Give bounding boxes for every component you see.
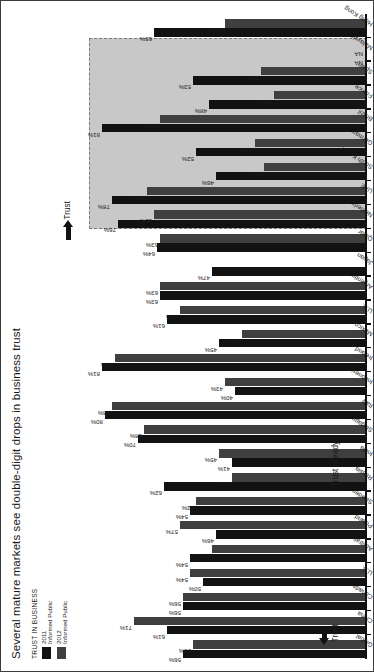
- bar-value-label: 62%: [149, 490, 161, 497]
- axis-tick: [365, 323, 371, 324]
- axis-tick: [365, 586, 371, 587]
- bar-2011: [196, 148, 365, 156]
- bar-2012: [144, 425, 365, 433]
- bar-value-label: 64%: [143, 251, 155, 258]
- bar-value-label: 50%: [188, 586, 200, 593]
- bar-group: 54%47%Australia: [89, 540, 365, 564]
- legend-label-2011: 2011 Informed Public: [41, 601, 54, 644]
- bar-group: 50%54%U.S.: [89, 563, 365, 587]
- bar-value-label: 52%: [182, 505, 194, 512]
- bar-2011: [193, 76, 365, 84]
- axis-tick: [365, 252, 371, 253]
- bar-group: 48%28%France: [89, 86, 365, 110]
- bar-value-label: 57%: [166, 314, 178, 321]
- bar-2012: [190, 569, 365, 577]
- bar-value-label: 63%: [146, 123, 158, 130]
- bar-value-label: 54%: [175, 514, 187, 521]
- bar-plot-area: 56%53%Global61%71%China56%56%Canada50%54…: [89, 14, 365, 659]
- axis-tick: [365, 37, 371, 38]
- bar-2012: [232, 473, 365, 481]
- axis-tick: [365, 108, 371, 109]
- axis-tick: [365, 371, 371, 372]
- bar-value-label: 28%: [260, 99, 272, 106]
- bar-2011: [190, 506, 365, 514]
- bar-2011: [216, 172, 365, 180]
- bar-value-label: 80%: [91, 419, 103, 426]
- category-axis-baseline: [365, 14, 367, 659]
- bar-value-label: 70%: [124, 443, 136, 450]
- bar-value-label: 54%: [175, 577, 187, 584]
- na-value-label: NA: [355, 51, 363, 58]
- bar-value-label: 65%: [140, 218, 152, 225]
- bar-2012: [261, 67, 365, 75]
- bar-group: 78%67%UAE: [89, 181, 365, 205]
- legend-item-2011: 2011 Informed Public: [41, 588, 54, 659]
- legend-swatch-2012: [57, 647, 66, 659]
- bar-value-label: 46%: [201, 180, 213, 187]
- bar-group: 53%32%Spain: [89, 62, 365, 86]
- bar-value-label: 52%: [182, 156, 194, 163]
- bar-group: 81%63%Brazil: [89, 110, 365, 134]
- bar-2012: [115, 354, 365, 362]
- bar-group: 46%57%Poland: [89, 516, 365, 540]
- rotated-page-wrapper: Several mature markets see double-digit …: [0, 0, 374, 672]
- bar-2012: [196, 497, 365, 505]
- bar-value-label: 56%: [169, 610, 181, 617]
- axis-tick: [365, 419, 371, 420]
- bar-2011: [112, 196, 365, 204]
- annotation-trust-steady: Trust Steady: [331, 441, 340, 487]
- axis-tick: [365, 610, 371, 611]
- bar-value-label: 63%: [146, 299, 158, 306]
- bar-value-label: 81%: [88, 132, 100, 139]
- bar-value-label: 67%: [133, 195, 145, 202]
- axis-tick: [365, 275, 371, 276]
- annotation-trust-left: Trust: [331, 624, 340, 642]
- bar-2012: [264, 163, 365, 171]
- bar-2011: [232, 459, 365, 467]
- bar-2012: [154, 210, 365, 218]
- axis-tick: [365, 538, 371, 539]
- bar-2011: [105, 411, 365, 419]
- annotation-trust-right: Trust: [63, 201, 72, 219]
- bar-2012: [160, 115, 365, 123]
- bar-value-label: 68%: [130, 433, 142, 440]
- axis-tick: [365, 132, 371, 133]
- bar-value-label: 48%: [195, 108, 207, 115]
- bar-group: 76%65%Netherlands: [89, 205, 365, 229]
- bar-group: 47%NAJapan: [89, 253, 365, 277]
- bar-2012: [225, 19, 365, 27]
- bar-value-label: 53%: [179, 648, 191, 655]
- bar-value-label: 34%: [240, 147, 252, 154]
- bar-group: 65%43%Hong Kong: [89, 14, 365, 38]
- bar-2011: [118, 220, 365, 228]
- bar-value-label: 31%: [250, 171, 262, 178]
- axis-tick: [365, 60, 371, 61]
- bar-2012: [274, 91, 365, 99]
- axis-tick: [365, 634, 371, 635]
- bar-2012: [212, 545, 365, 553]
- axis-tick: [365, 84, 371, 85]
- chart-legend: TRUST IN BUSINESS 2011 Informed Public 2…: [31, 588, 71, 659]
- bar-2011: [183, 650, 365, 658]
- bar-group: NANAMalaysia: [89, 38, 365, 62]
- bar-value-label: 63%: [146, 242, 158, 249]
- bar-value-label: 41%: [218, 466, 230, 473]
- bar-value-label: 47%: [198, 275, 210, 282]
- na-value-label: NA: [355, 266, 363, 273]
- page-title: Several mature markets see double-digit …: [10, 328, 22, 659]
- axis-tick: [365, 514, 371, 515]
- bar-group: 61%57%U.K.: [89, 301, 365, 325]
- bar-2011: [102, 363, 365, 371]
- bar-group: 45%38%Mexico: [89, 325, 365, 349]
- bar-value-label: 38%: [227, 338, 239, 345]
- bar-value-label: 43%: [211, 386, 223, 393]
- chart-canvas: Several mature markets see double-digit …: [0, 0, 374, 672]
- bar-2012: [180, 306, 365, 314]
- bar-value-label: 57%: [166, 529, 178, 536]
- bar-group: 64%63%Qatar: [89, 229, 365, 253]
- legend-title: TRUST IN BUSINESS: [31, 588, 38, 659]
- bar-2012: [147, 187, 365, 195]
- bar-2012: [160, 234, 365, 242]
- bar-value-label: 77%: [101, 362, 113, 369]
- axis-tick: [365, 156, 371, 157]
